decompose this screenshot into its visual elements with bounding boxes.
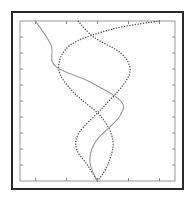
series-line-curve-2: [59, 21, 160, 181]
axes-box: [20, 21, 175, 181]
plot-area: [0, 0, 195, 200]
